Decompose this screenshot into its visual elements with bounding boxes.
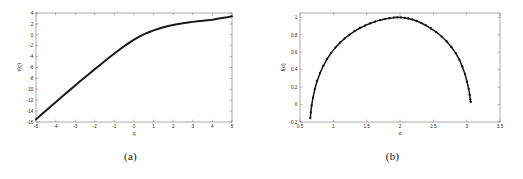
x-tick-label: 0.5 xyxy=(297,124,304,129)
data-point-marker xyxy=(469,98,471,100)
data-point-marker xyxy=(364,24,366,26)
data-point-marker xyxy=(430,27,432,29)
x-tick-label: 1 xyxy=(152,124,155,129)
data-point-marker xyxy=(310,111,312,113)
data-point-marker xyxy=(316,80,318,82)
panel-a-x-axis-label: q xyxy=(133,130,136,136)
panel-b-x-axis-label: α xyxy=(399,130,402,136)
x-tick-label: -5 xyxy=(34,124,39,129)
data-point-marker xyxy=(400,16,402,18)
y-tick-label: 0 xyxy=(295,102,298,107)
data-point-marker xyxy=(455,52,457,54)
y-tick-label: -10 xyxy=(27,87,34,92)
data-point-marker xyxy=(330,52,332,54)
data-point-marker xyxy=(312,96,314,98)
x-tick-label: -3 xyxy=(73,124,78,129)
y-tick-label: -4 xyxy=(29,54,34,59)
data-point-marker xyxy=(425,24,427,26)
y-tick-label: 2 xyxy=(31,22,34,27)
x-tick-label: 2 xyxy=(399,124,402,129)
data-point-marker xyxy=(322,65,324,67)
panel-b-caption: (b) xyxy=(262,150,523,162)
y-tick-label: -14 xyxy=(27,109,34,114)
panel-a-tau-q: -5-4-3-2-1012345420-2-4-6-8-10-12-14-16 … xyxy=(0,0,261,179)
data-point-marker xyxy=(420,22,422,24)
panel-a-caption: (a) xyxy=(0,150,261,162)
data-point-marker xyxy=(461,65,463,67)
y-tick-label: 0.4 xyxy=(291,67,298,72)
data-point-marker xyxy=(349,33,351,35)
panel-a-plot: -5-4-3-2-1012345420-2-4-6-8-10-12-14-16 … xyxy=(0,0,261,150)
data-point-marker xyxy=(314,88,316,90)
x-tick-label: 4 xyxy=(211,124,214,129)
panel-b-plot: 0.511.522.533.5-0.200.20.40.60.81 α f(α) xyxy=(262,0,523,150)
data-point-marker xyxy=(384,18,386,20)
figure-container: -5-4-3-2-1012345420-2-4-6-8-10-12-14-16 … xyxy=(0,0,523,179)
data-point-marker xyxy=(450,46,452,48)
x-tick-label: -4 xyxy=(54,124,59,129)
y-tick-label: 0.2 xyxy=(291,85,298,90)
data-point-marker xyxy=(319,72,321,74)
y-tick-label: -6 xyxy=(29,65,34,70)
data-point-marker xyxy=(309,117,311,119)
data-point-marker xyxy=(470,101,472,103)
data-point-marker xyxy=(466,81,468,83)
y-tick-label: -0.2 xyxy=(289,120,297,125)
data-curve xyxy=(36,16,232,119)
x-tick-label: 1 xyxy=(332,124,335,129)
y-tick-label: -2 xyxy=(29,43,34,48)
x-tick-label: 3 xyxy=(192,124,195,129)
x-tick-label: 2.5 xyxy=(430,124,437,129)
data-point-marker xyxy=(411,18,413,20)
x-tick-label: 0 xyxy=(133,124,136,129)
y-tick-label: 1 xyxy=(295,15,298,20)
data-point-marker xyxy=(468,88,470,90)
data-point-marker xyxy=(339,42,341,44)
panel-b-f-alpha: 0.511.522.533.5-0.200.20.40.60.81 α f(α)… xyxy=(262,0,523,179)
data-point-marker xyxy=(393,16,395,18)
data-point-marker xyxy=(311,104,313,106)
data-point-marker xyxy=(369,22,371,24)
data-point-marker xyxy=(416,20,418,22)
y-tick-label: 0 xyxy=(31,33,34,38)
x-tick-label: -1 xyxy=(112,124,117,129)
y-tick-label: -12 xyxy=(27,98,34,103)
x-tick-label: 5 xyxy=(231,124,234,129)
data-point-marker xyxy=(469,94,471,96)
y-tick-label: -8 xyxy=(29,76,34,81)
y-tick-label: 0.6 xyxy=(291,50,298,55)
panel-b-y-axis-label: f(α) xyxy=(280,63,287,71)
data-point-marker xyxy=(344,37,346,39)
data-point-marker xyxy=(464,73,466,75)
data-point-marker xyxy=(374,20,376,22)
data-point-marker xyxy=(359,27,361,29)
data-point-marker xyxy=(458,59,460,61)
x-tick-label: 3.5 xyxy=(497,124,504,129)
data-point-marker xyxy=(379,19,381,21)
data-point-marker xyxy=(407,17,409,19)
y-tick-label: 0.8 xyxy=(291,33,298,38)
data-point-marker xyxy=(396,16,398,18)
data-point-marker xyxy=(441,35,443,37)
panel-a-y-axis-label: τ(q) xyxy=(16,63,23,72)
y-tick-label: -16 xyxy=(27,120,34,125)
x-tick-label: 3 xyxy=(465,124,468,129)
data-point-marker xyxy=(435,31,437,33)
data-point-marker xyxy=(354,30,356,32)
x-tick-label: -2 xyxy=(93,124,98,129)
x-tick-label: 1.5 xyxy=(363,124,370,129)
data-point-marker xyxy=(388,17,390,19)
x-tick-label: 2 xyxy=(172,124,175,129)
data-curve xyxy=(310,17,470,118)
y-tick-label: 4 xyxy=(31,11,34,16)
data-point-marker xyxy=(446,40,448,42)
data-point-marker xyxy=(404,17,406,19)
data-point-marker xyxy=(326,58,328,60)
data-point-marker xyxy=(334,46,336,48)
